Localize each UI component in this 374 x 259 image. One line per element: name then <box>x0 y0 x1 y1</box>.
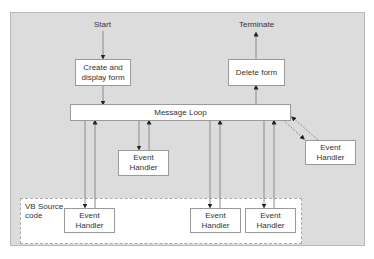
create-display-form-node: Create and display form <box>75 59 131 86</box>
event-handler-middle-node: Event Handler <box>118 150 169 176</box>
delete-form-node: Delete form <box>228 59 285 86</box>
event-handler-vb-3-node: Event Handler <box>245 208 296 233</box>
event-handler-vb-1-node: Event Handler <box>64 208 115 233</box>
event-handler-right-node: Event Handler <box>305 140 356 165</box>
start-label: Start <box>94 20 111 30</box>
connector-lines <box>0 0 374 259</box>
event-handler-vb-2-node: Event Handler <box>190 208 241 233</box>
message-loop-node: Message Loop <box>70 104 291 121</box>
terminate-label: Terminate <box>239 20 274 30</box>
